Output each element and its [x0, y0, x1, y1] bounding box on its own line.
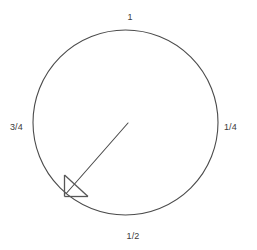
circle-diagram-svg: [0, 0, 257, 250]
unit-circle: [33, 30, 218, 215]
tick-label-right: 1/4: [224, 122, 246, 133]
figure-canvas: 1 1/4 1/2 3/4: [0, 0, 257, 250]
tick-label-left: 3/4: [10, 122, 32, 133]
arrowhead-icon: [65, 175, 89, 197]
tick-label-top: 1: [118, 12, 142, 23]
tick-label-bottom: 1/2: [121, 231, 145, 242]
radius-line: [66, 123, 128, 194]
